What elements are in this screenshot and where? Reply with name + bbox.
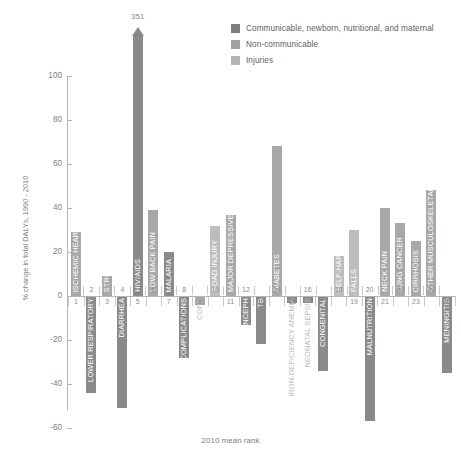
rank-divider xyxy=(316,286,317,295)
rank-number-8: 8 xyxy=(177,285,191,295)
bar-rank-11[interactable]: MAJOR DEPRESSIVE DISORDER xyxy=(226,215,236,296)
rank-divider xyxy=(145,286,146,295)
rank-number-22: 22 xyxy=(393,285,407,295)
bar-label-15: IRON-DEFICIENCY ANEMIA xyxy=(287,298,297,399)
rank-divider xyxy=(84,297,85,306)
rank-divider xyxy=(99,297,100,306)
y-tick-label-20: 20 xyxy=(38,247,62,256)
rank-divider xyxy=(68,297,69,306)
rank-divider xyxy=(254,286,255,295)
rank-divider xyxy=(285,286,286,295)
clipped-bar-value-351: 351 xyxy=(120,12,156,21)
bar-rank-6[interactable]: LOW BACK PAIN xyxy=(148,210,158,296)
rank-divider xyxy=(161,297,162,306)
rank-divider xyxy=(378,286,379,295)
bar-label-2: LOWER RESPIRATORY xyxy=(86,298,96,384)
bar-label-20: MALNUTRITION xyxy=(365,298,375,357)
rank-divider xyxy=(208,297,209,306)
rank-number-12: 12 xyxy=(239,285,253,295)
bar-rank-2[interactable]: LOWER RESPIRATORY xyxy=(86,296,96,393)
rank-divider xyxy=(130,286,131,295)
rank-divider xyxy=(300,286,301,295)
bar-label-19: FALLS xyxy=(349,269,359,294)
rank-number-10: 10 xyxy=(208,285,222,295)
rank-number-1: 1 xyxy=(69,297,83,307)
bar-rank-1[interactable]: ISCHEMIC HEART DISEASE xyxy=(71,232,81,296)
y-tick-label-60: 60 xyxy=(38,159,62,168)
rank-divider xyxy=(83,286,84,295)
y-tick-label-100: 100 xyxy=(38,71,62,80)
rank-divider xyxy=(439,297,440,306)
rank-divider xyxy=(346,297,347,306)
rank-divider xyxy=(114,286,115,295)
bar-rank-5[interactable]: HIV/AIDS xyxy=(133,36,143,296)
rank-divider xyxy=(99,286,100,295)
rank-divider xyxy=(238,286,239,295)
bar-label-4: DIARRHEA xyxy=(117,298,127,339)
bar-rank-3[interactable]: STROKE xyxy=(102,276,112,296)
rank-number-19: 19 xyxy=(347,297,361,307)
bar-rank-20[interactable]: MALNUTRITION xyxy=(365,296,375,421)
rank-number-9: 9 xyxy=(193,297,207,307)
bar-label-5: HIV/AIDS xyxy=(133,259,143,294)
bar-label-21: NECK PAIN xyxy=(380,251,390,294)
rank-divider xyxy=(177,297,178,306)
rank-divider xyxy=(331,286,332,295)
bar-label-23: CIRRHOSIS xyxy=(411,250,421,294)
bar-rank-23[interactable]: CIRRHOSIS xyxy=(411,241,421,296)
chart-canvas: Communicable, newborn, nutritional, and … xyxy=(0,0,461,458)
y-tick-label-40: 40 xyxy=(38,203,62,212)
bar-label-11: MAJOR DEPRESSIVE DISORDER xyxy=(226,172,236,294)
bar-label-24: OTHER MUSCULOSKELETAL xyxy=(426,187,436,294)
rank-number-11: 11 xyxy=(224,297,238,307)
bar-rank-8[interactable]: PRETERM COMPLICATIONS xyxy=(179,296,189,358)
rank-number-3: 3 xyxy=(100,297,114,307)
rank-number-13: 13 xyxy=(254,297,268,307)
rank-number-15: 15 xyxy=(285,297,299,307)
bar-rank-19[interactable]: FALLS xyxy=(349,230,359,296)
bar-rank-4[interactable]: DIARRHEA xyxy=(117,296,127,408)
x-axis-label: 2010 mean rank xyxy=(0,436,461,445)
rank-divider xyxy=(455,297,456,306)
y-tick--60 xyxy=(67,428,72,429)
rank-divider xyxy=(176,286,177,295)
rank-number-24: 24 xyxy=(424,285,438,295)
y-axis-label: % change in total DALYs, 1990 - 2010 xyxy=(21,181,30,301)
bar-rank-21[interactable]: NECK PAIN xyxy=(380,208,390,296)
rank-number-2: 2 xyxy=(84,285,98,295)
rank-divider xyxy=(269,297,270,306)
rank-divider xyxy=(408,297,409,306)
rank-divider xyxy=(439,286,440,295)
bar-label-8: PRETERM COMPLICATIONS xyxy=(179,298,189,402)
rank-divider xyxy=(253,297,254,306)
bar-label-16: NEONATAL SEPSIS xyxy=(303,298,313,369)
rank-divider xyxy=(377,297,378,306)
rank-divider xyxy=(207,286,208,295)
rank-divider xyxy=(347,286,348,295)
rank-number-14: 14 xyxy=(270,285,284,295)
rank-divider xyxy=(161,286,162,295)
rank-divider xyxy=(284,297,285,306)
rank-divider xyxy=(192,297,193,306)
bar-label-1: ISCHEMIC HEART DISEASE xyxy=(71,192,81,294)
rank-number-5: 5 xyxy=(131,297,145,307)
rank-divider xyxy=(239,297,240,306)
rank-divider xyxy=(423,286,424,295)
bar-rank-7[interactable]: MALARIA xyxy=(164,252,174,296)
rank-divider xyxy=(192,286,193,295)
bar-rank-24[interactable]: OTHER MUSCULOSKELETAL xyxy=(426,190,436,296)
bar-rank-25[interactable]: MENINGITIS xyxy=(442,296,452,373)
bar-rank-12[interactable]: N. ENCEPH xyxy=(241,296,251,325)
rank-number-6: 6 xyxy=(146,285,160,295)
bar-rank-14[interactable]: DIABETES xyxy=(272,146,282,296)
bar-rank-17[interactable]: CONGENITAL xyxy=(318,296,328,371)
rank-divider xyxy=(223,297,224,306)
clipped-bar-arrow-icon xyxy=(132,27,144,36)
rank-divider xyxy=(408,286,409,295)
rank-number-21: 21 xyxy=(378,297,392,307)
plot-area: ISCHEMIC HEART DISEASELOWER RESPIRATORYS… xyxy=(67,40,457,412)
rank-number-18: 18 xyxy=(332,285,346,295)
y-tick-label--60: -60 xyxy=(38,423,62,432)
rank-divider xyxy=(223,286,224,295)
rank-number-4: 4 xyxy=(115,285,129,295)
